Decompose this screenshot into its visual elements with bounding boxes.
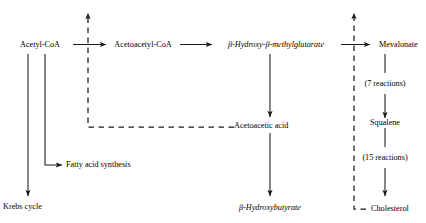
node-fatty-acid-synthesis: Fatty acid synthesis — [66, 161, 131, 169]
node-acetoacetic-acid: Acetoacetic acid — [234, 122, 288, 130]
node-hydroxybutyrate: β-Hydroxybutyrate — [239, 204, 301, 212]
node-squalene: Squalene — [370, 119, 400, 127]
feedback-edge-cholesterol-inhibition — [354, 13, 366, 209]
edge-label-fifteen-reactions: (15 reactions) — [362, 153, 407, 161]
node-cholesterol: Cholesterol — [371, 205, 409, 213]
pathway-connectors — [0, 0, 426, 223]
node-hmg: β-Hydroxy-β-methylglutarate — [228, 40, 324, 48]
node-mevalonate: Mevalonate — [379, 40, 418, 48]
node-krebs-cycle: Krebs cycle — [3, 203, 42, 211]
pathway-diagram: Acetyl-CoA Acetoacetyl-CoA β-Hydroxy-β-m… — [0, 0, 426, 223]
feedback-edge-acetoacetic-acid-inhibition — [88, 13, 234, 127]
node-acetyl-coa: Acetyl-CoA — [20, 40, 60, 48]
node-acetoacetyl-coa: Acetoacetyl-CoA — [114, 40, 171, 48]
edge-acetylcoa-to-fatty-acid-synthesis — [45, 54, 62, 165]
edge-label-seven-reactions: (7 reactions) — [364, 79, 405, 87]
